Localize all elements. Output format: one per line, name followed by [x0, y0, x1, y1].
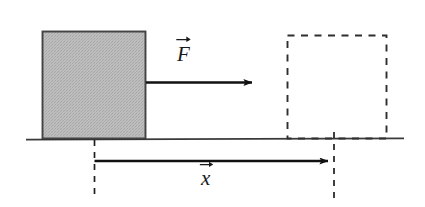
force-label-text: F: [177, 42, 190, 66]
displacement-label-text: x: [201, 166, 210, 190]
block-initial-position: [43, 32, 146, 139]
displacement-vector-label: x: [201, 168, 210, 189]
figure-canvas: [0, 0, 425, 207]
vector-arrow-icon: [176, 35, 191, 42]
block-final-position: [288, 36, 387, 139]
force-vector-label: F: [177, 44, 190, 65]
vector-arrow-icon: [199, 160, 213, 167]
physics-figure: F x: [0, 0, 425, 207]
